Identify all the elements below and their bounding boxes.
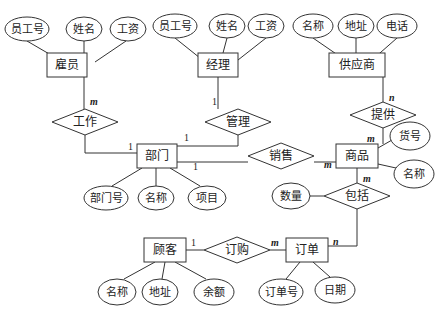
attribute-guyuan: 姓名: [66, 17, 102, 41]
node-label: 包括: [345, 188, 369, 203]
relationship-baokuo: 包括: [324, 183, 390, 209]
connector-line: [378, 140, 392, 148]
node-label: 余额: [203, 285, 225, 299]
attribute-guke: 地址: [142, 279, 178, 305]
er-diagram: 工作管理提供销售包括订购雇员经理供应商部门商品顾客订单员工号姓名工资员工号姓名工…: [0, 0, 443, 318]
attribute-jingli: 工资: [248, 14, 284, 38]
attribute-gongyingshang: 电话: [377, 14, 417, 38]
node-label: 雇员: [55, 57, 79, 72]
attribute-guke: 名称: [98, 279, 136, 305]
connector-line: [175, 262, 206, 279]
cardinality-label: m: [324, 159, 332, 170]
connector-line: [124, 262, 155, 279]
relationship-guanli: 管理: [205, 109, 271, 135]
cardinality-label: m: [90, 96, 98, 107]
cardinality-label: m: [367, 133, 375, 144]
connector-line: [286, 262, 300, 279]
connector-line: [112, 168, 142, 186]
relationship-gongzuo: 工作: [52, 109, 118, 135]
node-label: 日期: [324, 284, 346, 297]
entity-gongyingshang: 供应商: [329, 53, 385, 77]
entity-guke: 顾客: [144, 238, 186, 262]
cardinality-label: 1: [193, 161, 198, 172]
node-label: 地址: [149, 285, 171, 299]
nodes-layer: 工作管理提供销售包括订购雇员经理供应商部门商品顾客订单员工号姓名工资员工号姓名工…: [5, 14, 434, 305]
attribute-guke: 余额: [194, 279, 234, 305]
cardinality-label: n: [389, 92, 395, 103]
node-label: 名称: [403, 167, 425, 181]
attribute-gongyingshang: 地址: [338, 14, 374, 38]
node-label: 提供: [371, 107, 395, 122]
cardinality-label: 1: [184, 132, 189, 143]
connector-line: [162, 262, 165, 279]
cardinality-label: 1: [191, 237, 196, 248]
node-label: 名称: [302, 19, 324, 33]
entity-bumen: 部门: [137, 144, 177, 168]
cardinality-label: n: [333, 236, 339, 247]
node-label: 订单号: [265, 286, 298, 299]
attribute-dingdan: 订单号: [259, 279, 303, 305]
entity-jingli: 经理: [198, 53, 238, 77]
node-label: 姓名: [216, 19, 238, 33]
attribute-dingdan: 日期: [315, 277, 355, 303]
attribute-bumen: 部门号: [84, 186, 128, 210]
cardinality-label: 1: [128, 141, 133, 152]
node-label: 工资: [255, 20, 277, 33]
node-label: 地址: [345, 19, 367, 33]
connector-line: [223, 38, 227, 53]
attribute-shangpin: 名称: [394, 160, 434, 188]
node-label: 管理: [226, 114, 250, 129]
attribute-baokuo: 数量: [272, 183, 310, 209]
attribute-shangpin: 货号: [390, 122, 430, 150]
node-label: 员工号: [159, 20, 192, 33]
node-label: 经理: [206, 58, 230, 72]
node-label: 名称: [145, 191, 167, 205]
node-label: 项目: [196, 192, 218, 205]
attribute-guyuan: 工资: [110, 17, 146, 41]
node-label: 销售: [269, 148, 293, 163]
relationship-xiaoshou: 销售: [248, 143, 314, 169]
entity-dingdan: 订单: [286, 238, 328, 262]
attribute-guyuan: 员工号: [5, 17, 49, 41]
attribute-gongyingshang: 名称: [293, 14, 333, 38]
connector-line: [313, 262, 330, 277]
node-label: 订购: [225, 242, 249, 257]
node-label: 部门: [145, 148, 169, 163]
entity-guyuan: 雇员: [47, 53, 87, 77]
node-label: 姓名: [73, 22, 95, 36]
node-label: 名称: [106, 285, 128, 299]
node-label: 员工号: [11, 23, 44, 36]
entity-shangpin: 商品: [336, 144, 378, 168]
attribute-jingli: 员工号: [153, 14, 197, 38]
relationship-dinggou: 订购: [204, 237, 270, 263]
node-label: 部门号: [90, 191, 123, 205]
connector-line: [378, 164, 396, 168]
attribute-jingli: 姓名: [209, 14, 245, 38]
node-label: 电话: [386, 20, 408, 33]
attribute-bumen: 名称: [138, 186, 174, 210]
cardinality-label: m: [271, 237, 279, 248]
node-label: 订单: [295, 243, 319, 257]
node-label: 数量: [280, 190, 302, 203]
node-label: 顾客: [153, 242, 177, 257]
node-label: 货号: [399, 129, 421, 143]
attribute-bumen: 项目: [188, 186, 226, 210]
cardinality-label: m: [363, 173, 371, 184]
node-label: 供应商: [339, 57, 375, 72]
connector-line: [238, 38, 266, 60]
node-label: 工资: [117, 23, 139, 36]
connector-line: [95, 41, 126, 62]
cardinality-label: 1: [212, 96, 217, 107]
node-label: 商品: [345, 148, 369, 163]
node-label: 工作: [73, 115, 97, 129]
